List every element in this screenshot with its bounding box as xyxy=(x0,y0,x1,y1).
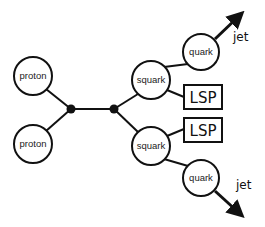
node-label: quark xyxy=(189,46,213,57)
node-lsp-top: LSP xyxy=(184,85,222,109)
node-label: quark xyxy=(189,172,213,183)
node-label: LSP xyxy=(190,89,217,107)
node-quark-bottom: quark xyxy=(183,160,219,196)
node-label: squark xyxy=(137,140,166,151)
edge-vertex-squark-bottom xyxy=(114,109,138,132)
node-lsp-bottom: LSP xyxy=(184,118,222,142)
feynman-diagram: proton proton squark squark quark quark … xyxy=(0,0,265,227)
edge-proton-top-vertex xyxy=(46,89,71,109)
node-label: squark xyxy=(137,74,166,85)
node-squark-top: squark xyxy=(132,61,170,99)
edge-squark-quark-top xyxy=(164,64,188,67)
jet-arrow-bottom xyxy=(215,191,238,212)
jet-label-top: jet xyxy=(232,30,249,44)
jet-label-bottom: jet xyxy=(235,178,252,192)
edge-proton-bottom-vertex xyxy=(46,109,71,131)
node-quark-top: quark xyxy=(183,34,219,70)
edge-squark-lsp-top xyxy=(167,90,184,97)
node-proton-bottom: proton xyxy=(14,125,52,163)
node-proton-top: proton xyxy=(14,57,52,95)
node-label: LSP xyxy=(190,122,217,140)
node-squark-bottom: squark xyxy=(132,127,170,165)
vertex-dot xyxy=(110,105,119,114)
edge-squark-quark-bottom xyxy=(164,159,188,166)
edge-squark-lsp-bottom xyxy=(167,129,184,136)
vertex-dot xyxy=(67,105,76,114)
node-label: proton xyxy=(20,138,47,149)
node-label: proton xyxy=(20,70,47,81)
